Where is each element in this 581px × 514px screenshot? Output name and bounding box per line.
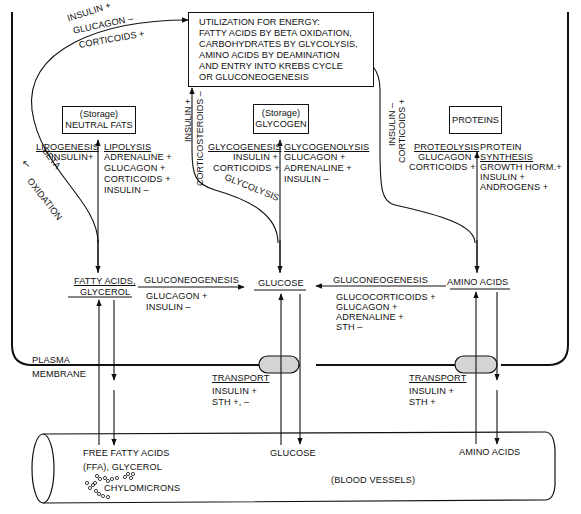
gluconeogenesis-fat-reg: GLUCAGON + — [146, 291, 208, 302]
protein-synthesis-reg: ANDROGENS + — [480, 182, 548, 193]
proteins-name: PROTEINS — [452, 115, 499, 126]
blood-glucose-label: GLUCOSE — [270, 448, 316, 459]
blood-glycerol-label: (FFA), GLYCEROL — [83, 462, 162, 473]
neutral-fats-box: (Storage) NEUTRAL FATS — [62, 106, 136, 134]
neutral-fats-name: NEUTRAL FATS — [65, 120, 132, 131]
glycogen-storage: (Storage) — [262, 108, 300, 119]
glycogen-name: GLYCOGEN — [255, 119, 306, 130]
lipolysis-reg: INSULIN – — [104, 185, 149, 196]
glycogenolysis-reg: ADRENALINE + — [284, 163, 352, 174]
blood-chylomicrons-label: CHYLOMICRONS — [104, 483, 180, 494]
energy-line: AMINO ACIDS BY DEAMINATION — [199, 50, 340, 61]
aa-transport-reg: INSULIN + — [409, 386, 454, 397]
energy-line: OR GLUCONEOGENESIS — [199, 72, 309, 83]
blood-vessels-label: (BLOOD VESSELS) — [331, 475, 415, 486]
glucose-transport-reg: STH +, – — [212, 397, 249, 408]
glucose-transport-label: TRANSPORT — [212, 373, 269, 384]
glucose-label: GLUCOSE — [258, 278, 304, 289]
protein-oxidation-insulin: INSULIN – — [387, 103, 397, 146]
energy-line: FATTY ACIDS BY BETA OXIDATION, — [199, 28, 352, 39]
neutral-fats-storage: (Storage) — [80, 109, 118, 120]
energy-line: CARBOHYDRATES BY GLYCOLYSIS, — [199, 39, 358, 50]
membrane-label: MEMBRANE — [32, 369, 86, 380]
glycogenolysis-reg: INSULIN – — [284, 174, 329, 185]
gluconeogenesis-fat-reg: INSULIN – — [146, 302, 191, 313]
glycerol-label: GLYCEROL — [80, 287, 130, 298]
aa-transport-reg: STH + — [409, 397, 436, 408]
lipolysis-reg: CORTICOIDS + — [104, 174, 171, 185]
glycogenolysis-reg: GLUCAGON + — [284, 152, 346, 163]
energy-line: AND ENTRY INTO KREBS CYCLE — [199, 61, 343, 72]
proteins-box: PROTEINS — [449, 106, 502, 134]
blood-amino-acids-label: AMINO ACIDS — [459, 447, 520, 458]
lipolysis-reg: ADRENALINE + — [104, 152, 172, 163]
gluconeogenesis-fat-label: GLUCONEOGENESIS — [144, 275, 239, 286]
fatty-acids-label: FATTY ACIDS, — [74, 276, 136, 287]
gluconeogenesis-aa-label: GLUCONEOGENESIS — [333, 275, 428, 286]
lipogenesis-reg: INSULIN+ — [51, 152, 93, 163]
blood-ffa-label: FREE FATTY ACIDS — [83, 448, 170, 459]
gluconeogenesis-aa-reg: STH – — [336, 322, 363, 333]
glycogenesis-reg: CORTICOIDS + — [213, 163, 280, 174]
glycogenesis-reg: INSULIN + — [233, 152, 278, 163]
lipolysis-reg: GLUCAGON + — [104, 163, 166, 174]
protein-oxidation-corticoids: CORTICOIDS + — [397, 99, 407, 163]
beta-oxidation-arrowhead: ↖ — [22, 158, 30, 169]
glycogen-box: (Storage) GLYCOGEN — [253, 104, 309, 134]
proteolysis-reg: CORTICOIDS + — [409, 162, 476, 173]
glycolysis-insulin: INSULIN + — [183, 99, 193, 142]
aa-transport-label: TRANSPORT — [409, 373, 466, 384]
glucose-transport-reg: INSULIN + — [212, 386, 257, 397]
amino-acids-label: AMINO ACIDS — [447, 277, 508, 288]
glycolysis-corticosteroids: CORTICOSTEROIDS – — [195, 91, 205, 186]
energy-utilization-box: UTILIZATION FOR ENERGY: FATTY ACIDS BY B… — [188, 12, 374, 87]
glucose-transporter — [259, 356, 299, 373]
plasma-label: PLASMA — [32, 355, 70, 366]
energy-line: UTILIZATION FOR ENERGY: — [199, 17, 320, 28]
